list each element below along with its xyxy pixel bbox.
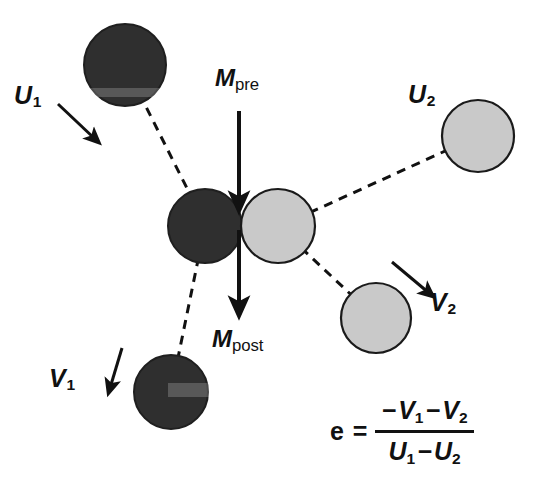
label-v1-sub: 1: [66, 376, 75, 393]
contact-ball-1: [168, 189, 242, 263]
numerator-term-1: V: [398, 396, 415, 424]
restitution-equation: e = − V1 − V2 U1 − U2: [330, 396, 474, 467]
numerator-minus-1: −: [381, 396, 396, 424]
denominator-sub-1: 1: [406, 449, 415, 466]
label-u1-symbol: U: [14, 81, 32, 109]
denominator-sub-2: 2: [452, 449, 461, 466]
label-m-pre: Mpre: [215, 66, 259, 94]
equation-denominator: U1 − U2: [382, 433, 466, 468]
contact-ball-2: [241, 189, 315, 263]
label-m-post-symbol: M: [212, 325, 232, 352]
equation-lhs: e =: [330, 417, 368, 446]
numerator-minus-2: −: [426, 396, 441, 424]
denominator-term-2: U: [434, 437, 452, 465]
label-u1-sub: 1: [33, 93, 42, 110]
arrow-v1: [110, 348, 122, 388]
label-v2-sub: 2: [447, 300, 456, 317]
label-m-post: Mpost: [212, 327, 263, 355]
collision-diagram: U1 U2 V1 V2 Mpre Mpost e = − V1 − V2 U1 …: [0, 0, 541, 483]
numerator-sub-1: 1: [415, 409, 424, 426]
denominator-minus: −: [417, 437, 432, 465]
incoming-ball-2: [442, 100, 514, 172]
equation-numerator: − V1 − V2: [375, 396, 473, 430]
label-m-pre-symbol: M: [215, 64, 235, 91]
outgoing-ball-2: [341, 283, 411, 353]
label-u2-symbol: U: [408, 80, 426, 108]
label-m-pre-sub: pre: [235, 75, 259, 94]
label-v2: V2: [430, 290, 456, 317]
arrow-v2: [392, 262, 429, 293]
label-v2-symbol: V: [430, 288, 447, 316]
balls: [84, 24, 514, 429]
denominator-term-1: U: [388, 437, 406, 465]
label-m-post-sub: post: [232, 336, 263, 355]
label-u2-sub: 2: [427, 92, 436, 109]
numerator-term-2: V: [442, 396, 459, 424]
label-v1: V1: [49, 366, 75, 393]
equation-fraction: − V1 − V2 U1 − U2: [375, 396, 473, 467]
numerator-sub-2: 2: [459, 409, 468, 426]
label-u2: U2: [408, 82, 436, 109]
label-u1: U1: [14, 83, 42, 110]
label-v1-symbol: V: [49, 364, 66, 392]
arrow-u1: [58, 104, 95, 139]
